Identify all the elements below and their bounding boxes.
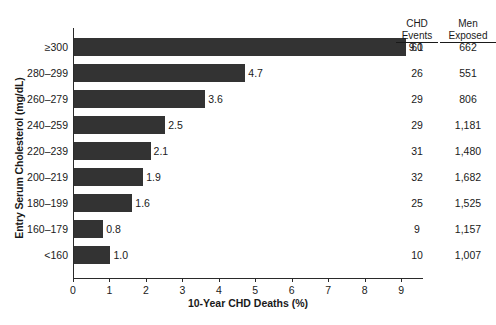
chd-events-value: 29: [396, 90, 438, 108]
x-tick-label: 5: [242, 284, 268, 296]
x-tick-mark: [365, 278, 366, 282]
category-label: 280–299: [0, 64, 68, 82]
chd-events-value: 60: [396, 38, 438, 56]
bar: [74, 64, 245, 82]
x-axis-line: [73, 278, 423, 279]
x-tick-mark: [182, 278, 183, 282]
men-exposed-value: 551: [440, 64, 496, 82]
x-tick-label: 7: [315, 284, 341, 296]
bar-value-label: 2.1: [151, 142, 169, 160]
category-label: 240–259: [0, 116, 68, 134]
bar: [74, 246, 110, 264]
x-tick-mark: [292, 278, 293, 282]
chd-events-value: 31: [396, 142, 438, 160]
chd-events-value: 29: [396, 116, 438, 134]
bar-value-label: 1.0: [110, 246, 128, 264]
x-tick-label: 2: [133, 284, 159, 296]
bar: [74, 116, 165, 134]
x-tick-mark: [109, 278, 110, 282]
men-exposed-value: 1,682: [440, 168, 496, 186]
x-tick-mark: [146, 278, 147, 282]
chd-events-value: 9: [396, 220, 438, 238]
bar-value-label: 1.6: [132, 194, 150, 212]
bar: [74, 38, 406, 56]
category-label: 160–179: [0, 220, 68, 238]
category-label: 260–279: [0, 90, 68, 108]
plot-area: 0123456789 ≥3009.1280–2994.7260–2793.624…: [73, 28, 423, 278]
x-tick-mark: [328, 278, 329, 282]
category-label: 220–239: [0, 142, 68, 160]
x-tick-label: 4: [206, 284, 232, 296]
bar-row: 160–1790.8: [73, 216, 423, 242]
bar: [74, 142, 151, 160]
bar-row: 180–1991.6: [73, 190, 423, 216]
chd-events-value: 32: [396, 168, 438, 186]
bar: [74, 90, 205, 108]
chd-events-value: 26: [396, 64, 438, 82]
x-tick-label: 0: [60, 284, 86, 296]
men-exposed-value: 1,525: [440, 194, 496, 212]
category-label: ≥300: [0, 38, 68, 56]
men-exposed-value: 1,157: [440, 220, 496, 238]
x-tick-mark: [255, 278, 256, 282]
x-tick-mark: [401, 278, 402, 282]
bar-row: 220–2392.1: [73, 138, 423, 164]
men-exposed-value: 1,007: [440, 246, 496, 264]
bar-row: 240–2592.5: [73, 112, 423, 138]
bar-value-label: 0.8: [103, 220, 121, 238]
bar-row: ≥3009.1: [73, 34, 423, 60]
bar-value-label: 2.5: [165, 116, 183, 134]
men-exposed-value: 1,480: [440, 142, 496, 160]
bar: [74, 194, 132, 212]
bar: [74, 168, 143, 186]
bar-value-label: 1.9: [143, 168, 161, 186]
bar: [74, 220, 103, 238]
category-label: 200–219: [0, 168, 68, 186]
x-tick-label: 9: [388, 284, 414, 296]
chd-events-value: 10: [396, 246, 438, 264]
bar-row: 200–2191.9: [73, 164, 423, 190]
x-tick-label: 1: [96, 284, 122, 296]
x-tick-label: 6: [279, 284, 305, 296]
men-exposed-value: 662: [440, 38, 496, 56]
bar-value-label: 4.7: [245, 64, 263, 82]
x-tick-mark: [73, 278, 74, 282]
x-tick-label: 3: [169, 284, 195, 296]
chart-container: Entry Serum Cholesterol (mg/dL) 01234567…: [0, 0, 496, 325]
bar-row: 260–2793.6: [73, 86, 423, 112]
bar-row: 280–2994.7: [73, 60, 423, 86]
chd-events-header-line1: CHD: [406, 18, 428, 29]
x-tick-label: 8: [352, 284, 378, 296]
bar-value-label: 3.6: [205, 90, 223, 108]
men-exposed-header-line1: Men: [458, 18, 477, 29]
men-exposed-value: 1,181: [440, 116, 496, 134]
category-label: <160: [0, 246, 68, 264]
x-axis-title: 10-Year CHD Deaths (%): [73, 297, 423, 309]
chd-events-value: 25: [396, 194, 438, 212]
category-label: 180–199: [0, 194, 68, 212]
bar-row: <1601.0: [73, 242, 423, 268]
men-exposed-value: 806: [440, 90, 496, 108]
x-tick-mark: [219, 278, 220, 282]
